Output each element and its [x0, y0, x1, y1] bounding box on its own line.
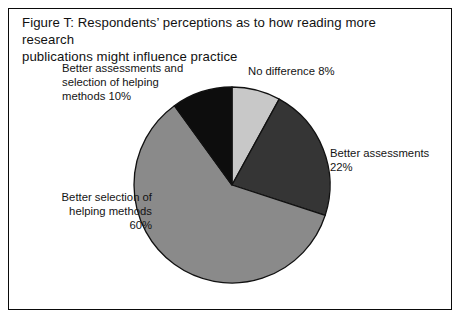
figure-container: Figure T: Respondents’ perceptions as to…: [0, 0, 460, 318]
pie-label-better-assessments: Better assessments 22%: [330, 146, 454, 174]
pie-label-better-selection: Better selection of helping methods 60%: [12, 190, 152, 233]
pie-label-better-assessments-and-selection: Better assessments and selection of help…: [62, 61, 222, 104]
pie-slice-group: [134, 87, 330, 283]
pie-label-no-difference: No difference 8%: [248, 64, 398, 78]
